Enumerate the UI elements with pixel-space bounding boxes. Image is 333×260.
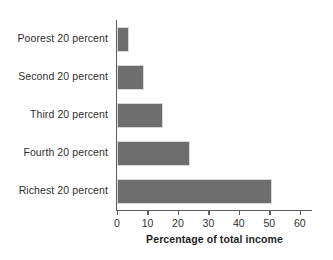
bar <box>117 103 163 128</box>
category-label-second: Second 20 percent <box>18 71 108 82</box>
bar <box>117 179 272 204</box>
x-axis-tick <box>208 210 209 215</box>
x-axis-tick <box>147 210 148 215</box>
x-axis-tick-label: 0 <box>114 217 120 229</box>
bar-chart: Poorest 20 percent Second 20 percent Thi… <box>0 0 333 260</box>
category-label-richest: Richest 20 percent <box>19 185 108 196</box>
category-label-poorest: Poorest 20 percent <box>17 33 108 44</box>
x-axis-tick-label: 10 <box>142 217 154 229</box>
x-axis-tick-label: 50 <box>264 217 276 229</box>
plot-area: 0102030405060 <box>117 20 312 210</box>
x-axis-tick <box>239 210 240 215</box>
category-label-third: Third 20 percent <box>30 109 108 120</box>
x-axis-tick-label: 40 <box>233 217 245 229</box>
x-axis-tick-label: 30 <box>203 217 215 229</box>
category-label-fourth: Fourth 20 percent <box>23 147 108 158</box>
x-axis-tick-label: 60 <box>294 217 306 229</box>
x-axis-tick-label: 20 <box>172 217 184 229</box>
bar <box>117 27 129 52</box>
x-axis-tick <box>300 210 301 215</box>
x-axis-title: Percentage of total income <box>117 233 312 245</box>
bar <box>117 141 190 166</box>
x-axis-tick <box>117 210 118 215</box>
x-axis-tick <box>178 210 179 215</box>
bar <box>117 65 144 90</box>
x-axis-tick <box>269 210 270 215</box>
x-axis-line <box>116 210 312 211</box>
category-axis-labels: Poorest 20 percent Second 20 percent Thi… <box>0 0 113 205</box>
